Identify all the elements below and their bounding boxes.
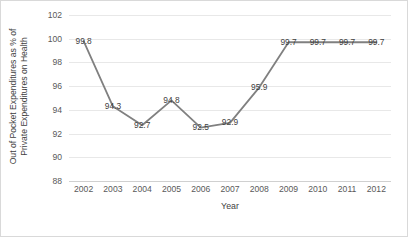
- data-point-label: 99.7: [280, 37, 296, 47]
- data-point-label: 95.9: [251, 82, 267, 92]
- y-axis-tick-label: 94: [52, 105, 62, 115]
- y-axis-title: Out of Pocket Expenditures as % of Priva…: [1, 1, 37, 191]
- data-point-label: 92.5: [193, 122, 209, 132]
- y-axis-title-line-1: Out of Pocket Expenditures as % of: [9, 28, 20, 164]
- y-axis-tick-label: 100: [48, 34, 62, 44]
- x-axis-line: [69, 181, 391, 182]
- y-axis-tick-label: 92: [52, 129, 62, 139]
- x-axis-tick-label: 2004: [133, 184, 152, 194]
- data-point-label: 92.9: [222, 117, 238, 127]
- y-axis-tick-label: 96: [52, 81, 62, 91]
- chart-figure: Out of Pocket Expenditures as % of Priva…: [0, 0, 408, 237]
- x-axis-tick-label: 2002: [74, 184, 93, 194]
- y-axis-title-line-2: Private Expenditures on Health: [19, 28, 30, 164]
- x-axis-tick-label: 2009: [279, 184, 298, 194]
- y-axis-tick-labels: 102100989694929088: [35, 15, 65, 181]
- x-axis-tick-label: 2005: [162, 184, 181, 194]
- x-axis-tick-label: 2008: [250, 184, 269, 194]
- x-axis-tick-label: 2011: [338, 184, 356, 194]
- y-axis-tick-label: 98: [52, 57, 62, 67]
- plot-area: 99.894.392.794.892.592.995.999.799.799.7…: [69, 15, 391, 181]
- x-axis-tick-label: 2010: [308, 184, 327, 194]
- data-point-label: 99.8: [75, 36, 91, 46]
- data-point-label: 94.8: [163, 95, 179, 105]
- x-axis-tick-label: 2003: [103, 184, 122, 194]
- data-point-label: 94.3: [105, 101, 121, 111]
- data-point-label: 99.7: [368, 37, 384, 47]
- x-axis-tick-labels: 2002200320042005200620072008200920102011…: [69, 184, 391, 200]
- y-axis-tick-label: 102: [48, 10, 62, 20]
- y-axis-tick-label: 88: [52, 176, 62, 186]
- data-point-labels: 99.894.392.794.892.592.995.999.799.799.7…: [69, 15, 391, 181]
- x-axis-tick-label: 2012: [367, 184, 386, 194]
- data-point-label: 99.7: [339, 37, 355, 47]
- x-axis-title: Year: [69, 201, 391, 211]
- data-point-label: 99.7: [310, 37, 326, 47]
- y-axis-tick-label: 90: [52, 152, 62, 162]
- data-point-label: 92.7: [134, 120, 150, 130]
- x-axis-tick-label: 2007: [220, 184, 239, 194]
- x-axis-tick-label: 2006: [191, 184, 210, 194]
